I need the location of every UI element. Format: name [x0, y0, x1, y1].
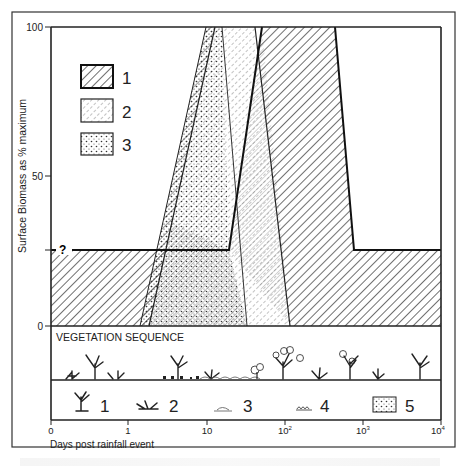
x-tick-100: 102: [278, 425, 293, 436]
legend: 1 2 3: [81, 65, 131, 155]
crust-icon: [214, 408, 232, 412]
shrub-icon: [171, 356, 187, 379]
x-tick-10: 10: [202, 425, 213, 436]
y-tick-50: 50: [32, 171, 44, 182]
biomass-figure: ? 100 50 0 Surface Biomass as % maximum …: [0, 0, 461, 470]
x-tick-1000: 103: [356, 425, 371, 436]
x-axis: 0 1 10 102 103 104 Days post rainfall ev…: [48, 420, 445, 450]
x-axis-label: Days post rainfall event: [50, 439, 154, 450]
legend-label-2: 2: [122, 103, 131, 122]
shrub-icon: [344, 356, 358, 379]
grass-tuft-icon: [66, 371, 79, 379]
x-tick-0: 0: [48, 425, 53, 436]
y-tick-100: 100: [26, 22, 43, 33]
legend-label-1: 1: [122, 69, 131, 88]
grass-tuft-icon: [137, 401, 158, 409]
key-label-4: 4: [320, 397, 329, 416]
legend-swatch-1: [81, 65, 113, 88]
grass-tuft-icon: [312, 368, 327, 379]
shrub-icon: [276, 354, 292, 379]
key-label-3: 3: [243, 397, 252, 416]
x-tick-1: 1: [125, 425, 130, 436]
cropped-caption: [20, 458, 440, 466]
legend-swatch-2: [81, 99, 113, 122]
vegetation-title: VEGETATION SEQUENCE: [56, 331, 184, 343]
key-label-2: 2: [169, 397, 178, 416]
legend-swatch-3: [81, 133, 113, 155]
key-label-1: 1: [100, 397, 109, 416]
litter-icon: [373, 397, 396, 412]
x-tick-10000: 104: [431, 425, 446, 436]
y-tick-0: 0: [37, 321, 43, 332]
grass-tuft-icon: [108, 371, 124, 379]
y-axis-label: Surface Biomass as % maximum: [16, 99, 28, 253]
grass-tuft-icon: [373, 369, 384, 379]
y-axis: 100 50 0 Surface Biomass as % maximum: [16, 22, 51, 332]
key-label-5: 5: [405, 397, 414, 416]
vegetation-sequence: VEGETATION SEQUENCE: [51, 331, 441, 420]
shrub-icon: [75, 392, 89, 411]
shrub-icon: [86, 355, 103, 379]
shrub-icon: [412, 354, 429, 379]
legend-label-3: 3: [122, 136, 131, 155]
unknown-baseline-marker: ?: [59, 243, 66, 257]
seedling-icon: [296, 407, 312, 410]
